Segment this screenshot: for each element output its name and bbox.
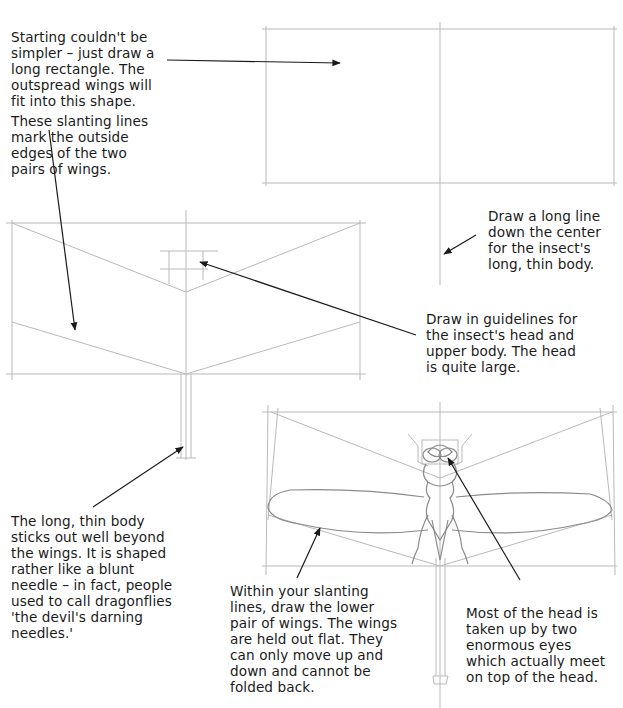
arrow-to-center-line xyxy=(444,235,476,254)
caption-rectangle: Starting couldn't be simpler – just draw… xyxy=(11,29,154,109)
arrow-to-wing xyxy=(297,528,320,578)
arrow-to-body xyxy=(93,447,183,507)
caption-wings: Within your slanting lines, draw the low… xyxy=(230,583,397,695)
caption-head-guidelines: Draw in guidelines for the insect's head… xyxy=(426,311,577,375)
arrow-to-head-guidelines xyxy=(200,262,416,335)
caption-slanting-lines: These slanting lines mark the outside ed… xyxy=(11,113,148,177)
caption-body: The long, thin body sticks out well beyo… xyxy=(11,513,172,641)
arrow-to-eyes xyxy=(448,458,520,580)
caption-center-line: Draw a long line down the center for the… xyxy=(488,208,601,272)
step2-sketch xyxy=(6,210,366,460)
arrow-to-rectangle xyxy=(167,60,340,63)
caption-eyes: Most of the head is taken up by two enor… xyxy=(466,605,605,685)
